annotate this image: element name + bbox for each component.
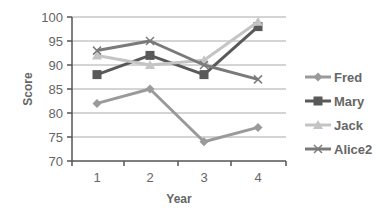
line-chart: 707580859095100 1234 FredMaryJackAlice2 … <box>0 0 389 216</box>
legend-item-fred: Fred <box>305 70 362 85</box>
square-marker <box>146 51 155 60</box>
x-axis-label: Year <box>166 192 192 206</box>
legend-label: Jack <box>334 118 364 133</box>
square-marker <box>200 70 209 79</box>
y-tick-label: 75 <box>49 130 63 145</box>
legend-item-alice2: Alice2 <box>305 142 372 157</box>
legend-label: Alice2 <box>334 142 372 157</box>
legend-item-mary: Mary <box>305 94 365 109</box>
diamond-marker <box>254 123 263 132</box>
diamond-marker <box>314 73 323 82</box>
y-tick-label: 70 <box>49 154 63 169</box>
legend-label: Mary <box>334 94 365 109</box>
diamond-marker <box>93 99 102 108</box>
series-jack <box>92 17 263 69</box>
y-tick-label: 100 <box>41 10 63 25</box>
square-marker <box>93 70 102 79</box>
series-mary <box>93 22 263 79</box>
legend-label: Fred <box>334 70 362 85</box>
y-tick-label: 95 <box>49 34 63 49</box>
data-series <box>92 17 263 147</box>
triangle-marker <box>253 17 263 26</box>
y-axis-ticks: 707580859095100 <box>41 10 72 169</box>
x-tick-label: 3 <box>200 170 207 185</box>
legend-item-jack: Jack <box>305 118 364 133</box>
x-tick-label: 1 <box>93 170 100 185</box>
legend: FredMaryJackAlice2 <box>305 70 372 157</box>
square-marker <box>314 97 323 106</box>
x-axis-ticks: 1234 <box>72 161 286 185</box>
x-tick-label: 4 <box>254 170 261 185</box>
x-tick-label: 2 <box>146 170 153 185</box>
y-tick-label: 85 <box>49 82 63 97</box>
y-tick-label: 80 <box>49 106 63 121</box>
y-tick-label: 90 <box>49 58 63 73</box>
y-axis-label: Score <box>21 72 35 106</box>
